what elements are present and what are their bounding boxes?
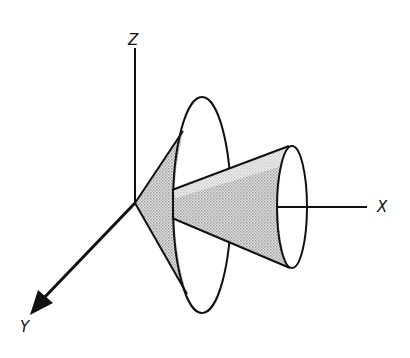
y-axis xyxy=(42,203,135,300)
y-axis-label: Y xyxy=(20,320,29,335)
cone-diagram xyxy=(0,0,410,358)
x-axis-label: X xyxy=(377,200,387,215)
z-axis-label: Z xyxy=(128,33,138,48)
